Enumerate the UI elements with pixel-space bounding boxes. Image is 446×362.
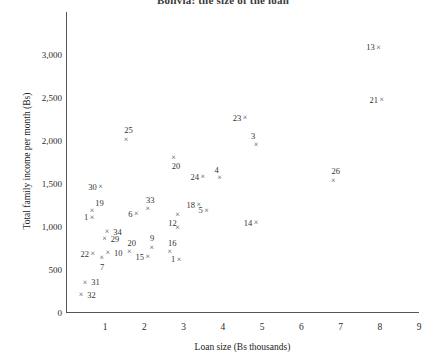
y-tick-label: 2,500 — [42, 94, 62, 103]
x-tick-label: 3 — [172, 322, 196, 332]
plot-frame — [66, 12, 419, 313]
x-tick-label: 6 — [289, 322, 313, 332]
x-tick-label: 2 — [132, 322, 156, 332]
scatter-plot-figure: Bolivia: the size of the loan Total fami… — [0, 0, 446, 362]
x-axis-title: Loan size (Bs thousands) — [66, 342, 419, 352]
x-tick-label: 8 — [368, 322, 392, 332]
y-tick-label: 500 — [49, 266, 63, 275]
page-title: Bolivia: the size of the loan — [0, 0, 446, 6]
x-tick-label: 9 — [407, 322, 431, 332]
y-tick-label: 1,000 — [42, 223, 62, 232]
y-axis-tick-labels: 05001,0001,5002,0002,5003,000 — [0, 0, 62, 362]
y-tick-label: 1,500 — [42, 180, 62, 189]
y-tick-label: 3,000 — [42, 51, 62, 60]
x-tick-label: 5 — [250, 322, 274, 332]
y-tick-label: 0 — [58, 309, 63, 318]
y-tick-label: 2,000 — [42, 137, 62, 146]
x-tick-label: 7 — [329, 322, 353, 332]
x-tick-label: 4 — [211, 322, 235, 332]
x-tick-label: 1 — [93, 322, 117, 332]
